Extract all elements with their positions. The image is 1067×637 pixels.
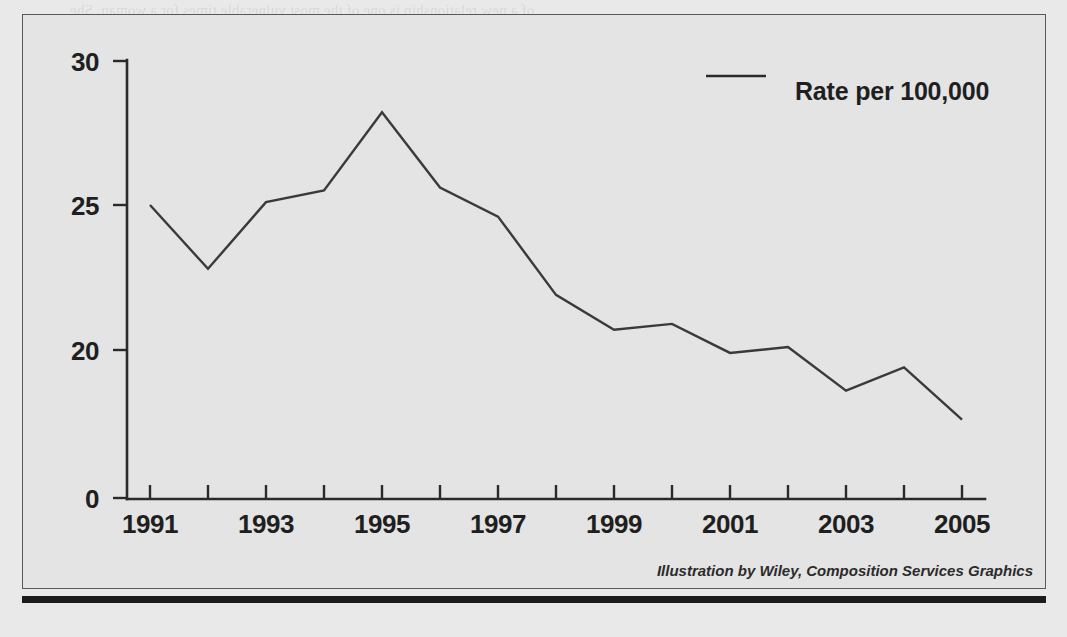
x-axis-label-2003: 2003 [788,509,904,540]
data-series-line [150,112,962,419]
x-axis-label-1997: 1997 [440,509,556,540]
bottom-rule-divider [22,596,1046,603]
x-axis-ticks [150,485,962,499]
page-background: of a new relationship is one of the most… [0,0,1067,637]
illustration-credit: Illustration by Wiley, Composition Servi… [23,562,1033,579]
legend-label: Rate per 100,000 [795,77,989,106]
y-axis-label-30: 30 [53,47,99,78]
x-axis-label-1995: 1995 [324,509,440,540]
x-axis-label-2001: 2001 [672,509,788,540]
chart-figure: 30 25 20 0 1991 1993 1995 1997 1999 2001… [22,14,1046,589]
x-axis-label-1999: 1999 [556,509,672,540]
y-axis-label-20: 20 [53,336,99,367]
x-axis-label-1993: 1993 [208,509,324,540]
x-axis-label-2005: 2005 [904,509,1020,540]
y-axis-ticks [113,61,127,498]
x-axis-label-1991: 1991 [92,509,208,540]
chart-axes [127,60,985,499]
y-axis-label-25: 25 [53,191,99,222]
